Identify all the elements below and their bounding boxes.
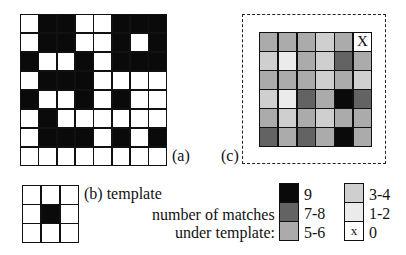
template-white-cell (61, 186, 78, 204)
black-cell (113, 91, 130, 108)
white-cell (113, 72, 130, 89)
black-cell (39, 15, 56, 32)
black-cell (113, 15, 130, 32)
black-cell (76, 53, 93, 70)
white-cell (58, 148, 75, 165)
match-cell (279, 109, 296, 127)
match-cell (335, 90, 352, 108)
black-cell (113, 53, 130, 70)
match-cell (279, 71, 296, 89)
template-white-cell (61, 205, 78, 223)
black-cell (113, 34, 130, 51)
white-cell (94, 129, 111, 146)
match-cell (260, 90, 277, 108)
white-cell (58, 91, 75, 108)
binary-image-grid-a (20, 14, 167, 166)
template-white-cell (42, 224, 59, 242)
match-cell (354, 109, 371, 127)
white-cell (131, 34, 148, 51)
black-cell (76, 72, 93, 89)
match-cell (260, 128, 277, 146)
legend-swatch (345, 184, 363, 202)
white-cell (113, 110, 130, 127)
black-cell (39, 72, 56, 89)
white-cell (113, 148, 130, 165)
black-cell (58, 129, 75, 146)
white-cell (21, 148, 38, 165)
match-count-grid-c: X (259, 32, 372, 147)
match-cell (279, 52, 296, 70)
match-cell (298, 52, 315, 70)
match-cell (335, 71, 352, 89)
black-cell (39, 110, 56, 127)
label-b-template: (b) template (84, 186, 162, 202)
template-black-cell (42, 205, 59, 223)
black-cell (39, 34, 56, 51)
match-cell (260, 33, 277, 51)
match-cell (298, 109, 315, 127)
match-cell (354, 128, 371, 146)
template-white-cell (61, 224, 78, 242)
legend-swatch (280, 222, 298, 240)
template-white-cell (42, 186, 59, 204)
black-cell (149, 129, 166, 146)
match-cell (316, 90, 333, 108)
white-cell (149, 148, 166, 165)
white-cell (76, 110, 93, 127)
black-cell (113, 129, 130, 146)
white-cell (149, 72, 166, 89)
black-cell (131, 15, 148, 32)
black-cell (58, 72, 75, 89)
legend-label-1-2: 1-2 (369, 206, 390, 222)
legend-swatch: x (345, 222, 363, 240)
match-cell (260, 109, 277, 127)
white-cell (94, 72, 111, 89)
match-cell (316, 71, 333, 89)
black-cell (149, 34, 166, 51)
match-cell (279, 90, 296, 108)
match-cell (316, 128, 333, 146)
match-cell (279, 128, 296, 146)
white-cell (94, 110, 111, 127)
legend-swatch (280, 203, 298, 221)
white-cell (131, 148, 148, 165)
match-cell (316, 33, 333, 51)
white-cell (94, 34, 111, 51)
legend-swatches-low: x (344, 183, 364, 241)
match-cell (260, 52, 277, 70)
match-cell (260, 71, 277, 89)
match-cell (316, 109, 333, 127)
legend-label-3-4: 3-4 (369, 187, 390, 203)
white-cell (21, 129, 38, 146)
match-cell (335, 128, 352, 146)
legend-label-7-8: 7-8 (304, 206, 325, 222)
match-cell (354, 52, 371, 70)
legend-swatch (345, 203, 363, 221)
match-cell (335, 109, 352, 127)
template-grid-b (22, 185, 79, 243)
black-cell (76, 91, 93, 108)
black-cell (58, 34, 75, 51)
template-white-cell (23, 224, 40, 242)
white-cell (94, 53, 111, 70)
white-cell (131, 110, 148, 127)
white-cell (58, 53, 75, 70)
white-cell (58, 110, 75, 127)
white-cell (21, 34, 38, 51)
match-cell (298, 71, 315, 89)
black-cell (39, 129, 56, 146)
legend-title-line1: number of matches (152, 207, 275, 223)
white-cell (131, 72, 148, 89)
legend-label-5-6: 5-6 (304, 225, 325, 241)
white-cell (76, 34, 93, 51)
black-cell (76, 129, 93, 146)
white-cell (94, 148, 111, 165)
legend-swatch (280, 184, 298, 202)
match-cell (279, 33, 296, 51)
match-cell (316, 52, 333, 70)
label-c: (c) (221, 148, 239, 164)
label-a: (a) (172, 148, 190, 164)
white-cell (149, 91, 166, 108)
white-cell (131, 129, 148, 146)
black-cell (149, 15, 166, 32)
